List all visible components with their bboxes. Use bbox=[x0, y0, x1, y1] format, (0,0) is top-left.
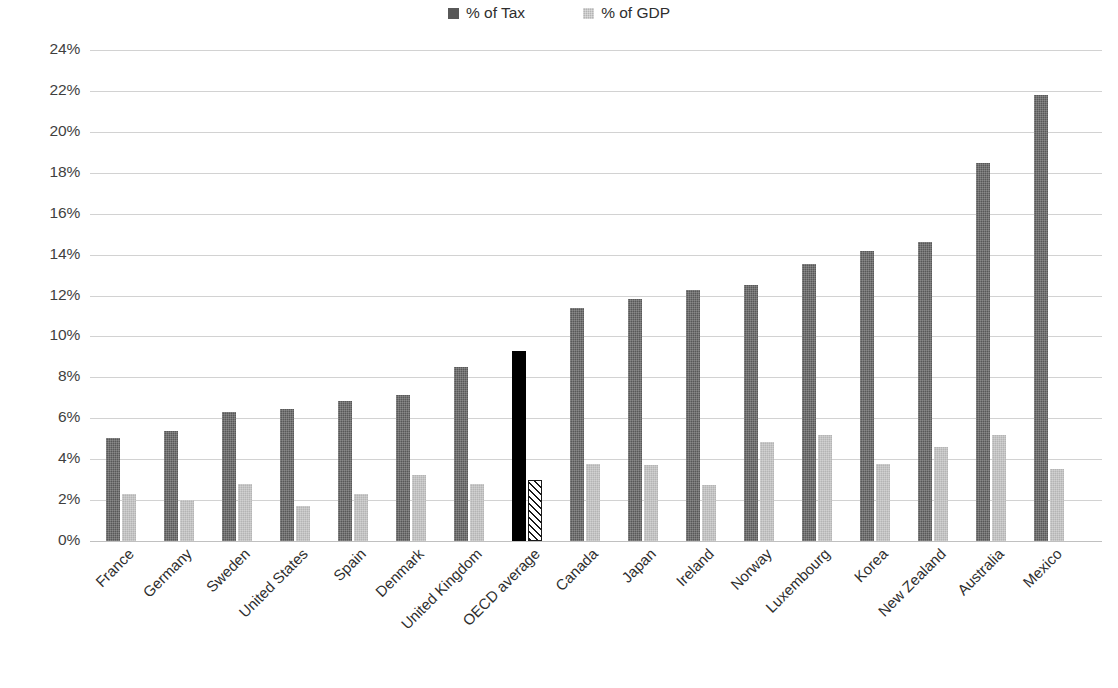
bar-gdp[interactable] bbox=[528, 480, 542, 541]
x-axis-label: Norway bbox=[727, 545, 775, 593]
bar-groups bbox=[90, 50, 1102, 541]
y-axis-tick-label: 22% bbox=[28, 81, 80, 99]
bar-gdp[interactable] bbox=[702, 485, 716, 541]
bar-group[interactable] bbox=[628, 50, 662, 541]
bar-gdp[interactable] bbox=[934, 447, 948, 541]
bar-group[interactable] bbox=[570, 50, 604, 541]
chart-legend: % of Tax % of GDP bbox=[0, 0, 1118, 26]
bar-tax[interactable] bbox=[686, 290, 700, 541]
bar-group[interactable] bbox=[222, 50, 256, 541]
bar-group[interactable] bbox=[280, 50, 314, 541]
bar-tax[interactable] bbox=[570, 308, 584, 541]
bar-gdp[interactable] bbox=[238, 484, 252, 541]
bar-tax[interactable] bbox=[1034, 95, 1048, 541]
tax-swatch-icon bbox=[448, 8, 459, 19]
bar-group[interactable] bbox=[338, 50, 372, 541]
bar-gdp[interactable] bbox=[760, 442, 774, 541]
legend-item-tax[interactable]: % of Tax bbox=[448, 4, 525, 22]
x-axis-label: France bbox=[92, 545, 137, 590]
gridline bbox=[90, 541, 1102, 542]
x-axis-label: Mexico bbox=[1019, 545, 1065, 591]
bar-group[interactable] bbox=[860, 50, 894, 541]
x-axis-label: Ireland bbox=[673, 545, 717, 589]
y-axis-tick-label: 20% bbox=[28, 122, 80, 140]
bar-gdp[interactable] bbox=[818, 435, 832, 541]
legend-label-gdp: % of GDP bbox=[601, 4, 670, 22]
bar-tax[interactable] bbox=[744, 285, 758, 541]
y-axis-tick-label: 24% bbox=[28, 40, 80, 58]
bar-gdp[interactable] bbox=[644, 465, 658, 541]
bar-group[interactable] bbox=[396, 50, 430, 541]
bar-tax[interactable] bbox=[976, 163, 990, 541]
y-axis-tick-label: 16% bbox=[28, 204, 80, 222]
y-axis-tick-label: 12% bbox=[28, 286, 80, 304]
bar-tax[interactable] bbox=[628, 299, 642, 541]
y-axis-tick-label: 6% bbox=[28, 408, 80, 426]
bar-tax[interactable] bbox=[918, 242, 932, 541]
bar-gdp[interactable] bbox=[122, 494, 136, 541]
x-axis-label: Japan bbox=[618, 545, 659, 586]
bar-tax[interactable] bbox=[802, 264, 816, 541]
bar-group[interactable] bbox=[802, 50, 836, 541]
gdp-swatch-icon bbox=[583, 8, 594, 19]
x-axis-labels: FranceGermanySwedenUnited StatesSpainDen… bbox=[90, 545, 1102, 685]
bar-gdp[interactable] bbox=[992, 435, 1006, 541]
x-axis-label: Korea bbox=[851, 545, 891, 585]
x-axis-label: Sweden bbox=[203, 545, 253, 595]
x-axis-label: Germany bbox=[139, 545, 195, 601]
y-axis-tick-label: 2% bbox=[28, 490, 80, 508]
x-axis-label: Denmark bbox=[372, 545, 427, 600]
bar-group[interactable] bbox=[686, 50, 720, 541]
bar-gdp[interactable] bbox=[1050, 469, 1064, 541]
bar-tax[interactable] bbox=[106, 438, 120, 541]
bar-tax[interactable] bbox=[454, 367, 468, 541]
bar-gdp[interactable] bbox=[876, 464, 890, 541]
bar-group[interactable] bbox=[744, 50, 778, 541]
bar-group[interactable] bbox=[164, 50, 198, 541]
y-axis-tick-label: 10% bbox=[28, 326, 80, 344]
bar-tax[interactable] bbox=[860, 251, 874, 542]
bar-group[interactable] bbox=[512, 50, 546, 541]
bar-group[interactable] bbox=[454, 50, 488, 541]
bar-tax[interactable] bbox=[396, 395, 410, 541]
legend-label-tax: % of Tax bbox=[466, 4, 525, 22]
x-axis-label: Spain bbox=[330, 545, 369, 584]
bar-group[interactable] bbox=[976, 50, 1010, 541]
bar-gdp[interactable] bbox=[180, 500, 194, 541]
y-axis-tick-label: 14% bbox=[28, 245, 80, 263]
bar-gdp[interactable] bbox=[412, 475, 426, 541]
y-axis-tick-label: 8% bbox=[28, 367, 80, 385]
x-axis-label: Australia bbox=[954, 545, 1007, 598]
bar-group[interactable] bbox=[106, 50, 140, 541]
bar-tax[interactable] bbox=[164, 431, 178, 541]
bar-group[interactable] bbox=[1034, 50, 1068, 541]
y-axis-tick-label: 4% bbox=[28, 449, 80, 467]
legend-item-gdp[interactable]: % of GDP bbox=[583, 4, 670, 22]
bar-gdp[interactable] bbox=[470, 484, 484, 541]
bar-gdp[interactable] bbox=[354, 494, 368, 541]
bar-tax[interactable] bbox=[338, 401, 352, 541]
y-axis-tick-label: 18% bbox=[28, 163, 80, 181]
bar-tax[interactable] bbox=[222, 412, 236, 541]
bar-gdp[interactable] bbox=[296, 506, 310, 541]
y-axis-tick-label: 0% bbox=[28, 531, 80, 549]
bar-gdp[interactable] bbox=[586, 464, 600, 541]
bar-chart: % of Tax % of GDP 0%2%4%6%8%10%12%14%16%… bbox=[0, 0, 1118, 688]
bar-tax[interactable] bbox=[280, 409, 294, 541]
plot-area bbox=[90, 50, 1102, 541]
bar-tax[interactable] bbox=[512, 351, 526, 541]
x-axis-label: Canada bbox=[552, 545, 601, 594]
bar-group[interactable] bbox=[918, 50, 952, 541]
